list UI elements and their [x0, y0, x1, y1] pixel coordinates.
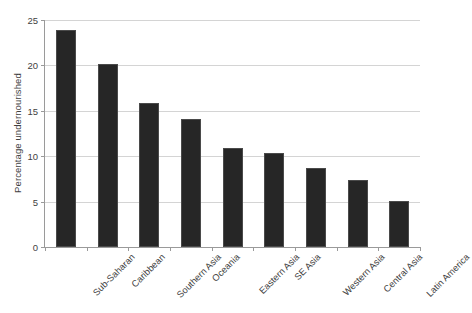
y-tick-label: 25 [27, 15, 38, 26]
y-tick-mark [41, 202, 45, 203]
x-tick-mark [420, 247, 421, 251]
x-tick-mark [128, 247, 129, 251]
bar [56, 30, 76, 247]
x-tick-mark [337, 247, 338, 251]
bar [264, 153, 284, 247]
x-tick-mark [87, 247, 88, 251]
x-tick-mark [212, 247, 213, 251]
x-tick-label: Central Asia [381, 252, 424, 295]
x-tick-label: Latin America [425, 252, 472, 300]
x-tick-mark [170, 247, 171, 251]
bar [389, 201, 409, 247]
y-tick-label: 10 [27, 151, 38, 162]
x-tick-mark [378, 247, 379, 251]
bar [223, 148, 243, 247]
gridline [45, 20, 420, 21]
x-tick-mark [45, 247, 46, 251]
y-tick-mark [41, 111, 45, 112]
bar [139, 103, 159, 247]
y-tick-label: 20 [27, 60, 38, 71]
x-tick-mark [253, 247, 254, 251]
x-tick-label: Western Asia [341, 252, 387, 298]
x-axis-line [45, 247, 420, 248]
bar [181, 119, 201, 247]
y-tick-label: 15 [27, 105, 38, 116]
x-tick-label: Sub-Saharan [91, 252, 138, 299]
plot-area: 0510152025 [45, 20, 420, 247]
y-tick-mark [41, 65, 45, 66]
bar [306, 168, 326, 247]
y-axis-title: Percentage undernourished [9, 8, 27, 258]
y-tick-mark [41, 156, 45, 157]
y-tick-mark [41, 20, 45, 21]
x-tick-mark [295, 247, 296, 251]
y-tick-label: 5 [33, 196, 38, 207]
bar [348, 180, 368, 247]
y-tick-label: 0 [33, 242, 38, 253]
bar [98, 64, 118, 247]
